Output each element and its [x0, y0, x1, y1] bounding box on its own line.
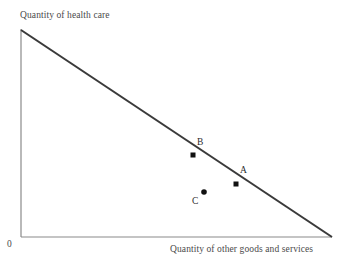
chart-canvas: [0, 0, 341, 261]
y-axis-title: Quantity of health care: [20, 11, 110, 21]
point-marker-b: [191, 153, 196, 158]
point-marker-a: [234, 182, 239, 187]
point-label-c: C: [192, 197, 198, 207]
point-label-b: B: [197, 138, 203, 148]
point-label-a: A: [240, 166, 247, 176]
origin-label: 0: [7, 240, 12, 250]
ppf-budget-constraint-figure: Quantity of health care Quantity of othe…: [0, 0, 341, 261]
budget-constraint-line: [21, 30, 332, 237]
point-marker-c: [201, 189, 207, 195]
x-axis-title: Quantity of other goods and services: [170, 245, 313, 255]
